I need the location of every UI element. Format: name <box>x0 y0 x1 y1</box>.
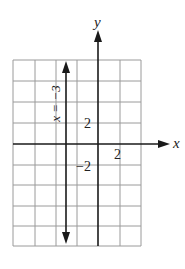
vertical-line-x-neg3 <box>62 61 70 244</box>
x-axis <box>13 140 170 148</box>
y-axis <box>94 30 102 246</box>
x-axis-arrow-icon <box>158 140 170 148</box>
y-tick-label-2: 2 <box>84 117 91 131</box>
coordinate-graph <box>0 0 185 269</box>
y-axis-label: y <box>94 15 101 30</box>
x-axis-label: x <box>173 136 180 151</box>
line-equation-label: x = −3 <box>49 78 62 130</box>
y-axis-arrow-icon <box>94 30 102 42</box>
line-down-arrow-icon <box>62 232 70 244</box>
line-up-arrow-icon <box>62 61 70 73</box>
x-tick-label-2: 2 <box>114 148 121 162</box>
grid <box>13 60 141 246</box>
y-tick-label-neg2: −2 <box>76 160 91 174</box>
